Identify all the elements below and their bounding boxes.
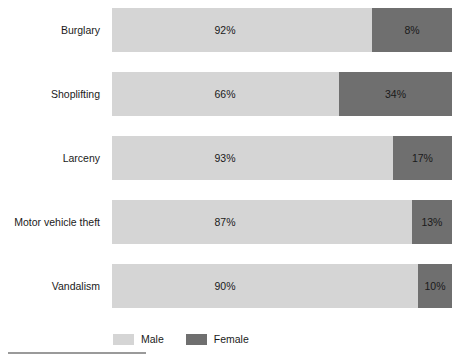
bar-segment-female[interactable]: 10% [418, 264, 452, 308]
category-label-burglary: Burglary [0, 8, 100, 52]
bar-value-male: 90% [214, 280, 235, 292]
bar-segment-male[interactable]: 93% [112, 136, 393, 180]
bar-value-female: 10% [424, 280, 445, 292]
bar-segment-female[interactable]: 17% [393, 136, 452, 180]
bar-segment-male[interactable]: 90% [112, 264, 418, 308]
category-label-vandalism: Vandalism [0, 264, 100, 308]
bar-value-female: 34% [385, 88, 406, 100]
bar-segment-male[interactable]: 87% [112, 200, 412, 244]
chart-legend: Male Female [0, 330, 462, 348]
bar-value-female: 13% [421, 216, 442, 228]
bar-value-male: 87% [214, 216, 235, 228]
bar-track: 90% 10% [112, 264, 452, 308]
bar-value-male: 92% [214, 24, 235, 36]
bar-track: 66% 34% [112, 72, 452, 116]
footer-divider [8, 352, 146, 354]
legend-label-male: Male [141, 333, 164, 345]
bar-value-female: 17% [412, 152, 433, 164]
bar-value-male: 66% [214, 88, 235, 100]
bar-segment-female[interactable]: 34% [339, 72, 452, 116]
legend-item-male[interactable]: Male [113, 333, 164, 345]
bar-track: 93% 17% [112, 136, 452, 180]
bar-track: 92% 8% [112, 8, 452, 52]
bar-row: Larceny 93% 17% [0, 136, 462, 180]
category-label-larceny: Larceny [0, 136, 100, 180]
bar-value-male: 93% [214, 152, 235, 164]
legend-swatch-male-icon [113, 334, 134, 345]
legend-label-female: Female [214, 333, 249, 345]
legend-swatch-female-icon [186, 334, 207, 345]
bar-segment-male[interactable]: 92% [112, 8, 372, 52]
legend-item-female[interactable]: Female [186, 333, 249, 345]
legend-spacer [0, 339, 113, 340]
bar-segment-female[interactable]: 8% [372, 8, 452, 52]
bar-row: Vandalism 90% 10% [0, 264, 462, 308]
bar-row: Burglary 92% 8% [0, 8, 462, 52]
bar-row: Motor vehicle theft 87% 13% [0, 200, 462, 244]
bar-track: 87% 13% [112, 200, 452, 244]
category-label-motor-vehicle-theft: Motor vehicle theft [0, 200, 100, 244]
stacked-bar-chart: Burglary 92% 8% Shoplifting 66% 34% Larc… [0, 0, 462, 360]
category-label-shoplifting: Shoplifting [0, 72, 100, 116]
bar-segment-female[interactable]: 13% [412, 200, 452, 244]
bar-row: Shoplifting 66% 34% [0, 72, 462, 116]
bar-value-female: 8% [404, 24, 419, 36]
bar-segment-male[interactable]: 66% [112, 72, 339, 116]
